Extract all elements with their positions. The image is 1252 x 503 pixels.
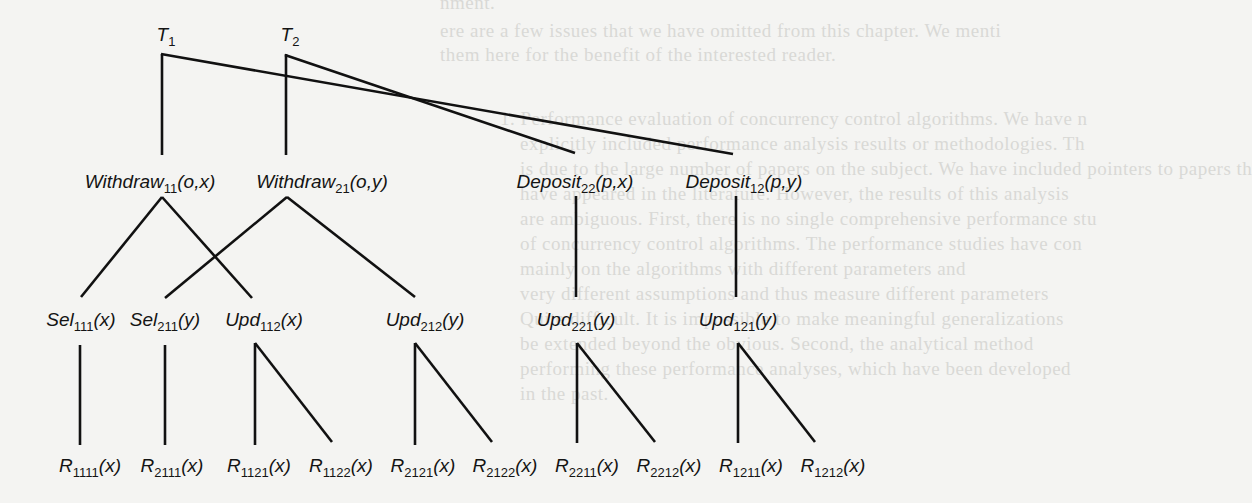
edge-withdraw11-sel111: [81, 197, 162, 297]
node-r2111: R2111(x): [141, 456, 204, 475]
node-label: Upd: [699, 309, 734, 330]
node-args: (o,x): [177, 171, 215, 192]
node-subscript: 21: [335, 181, 349, 196]
node-upd212: Upd212(y): [386, 310, 465, 329]
node-args: (x): [281, 309, 303, 330]
node-args: (x): [351, 455, 373, 476]
node-args: (y): [593, 309, 615, 330]
node-r2211: R2211(x): [555, 456, 619, 475]
node-subscript: 1111: [73, 465, 99, 480]
node-r1211: R1211(x): [719, 456, 783, 475]
edge-t1-deposit12: [161, 54, 733, 154]
node-label: Sel: [130, 309, 157, 330]
node-args: (y): [178, 309, 200, 330]
node-args: (p,x): [595, 171, 633, 192]
node-args: (x): [94, 309, 116, 330]
node-label: R: [719, 455, 733, 476]
node-label: Deposit: [686, 171, 750, 192]
node-deposit12: Deposit12(p,y): [686, 172, 803, 191]
node-t2: T2: [281, 25, 300, 44]
edge-upd221-r2212: [577, 343, 655, 442]
node-subscript: 1211: [733, 465, 761, 480]
node-args: (o,y): [350, 171, 388, 192]
edge-withdraw21-sel211: [165, 197, 287, 298]
node-subscript: 2: [292, 34, 299, 49]
node-args: (x): [679, 455, 701, 476]
node-upd121: Upd121(y): [699, 310, 778, 329]
node-r2122: R2122(x): [473, 456, 538, 475]
node-args: (x): [269, 455, 291, 476]
node-r1212: R1212(x): [801, 456, 866, 475]
node-args: (x): [597, 455, 619, 476]
node-subscript: 2211: [569, 465, 597, 480]
node-subscript: 2122: [486, 465, 515, 480]
node-r1111: R1111(x): [59, 456, 121, 475]
edge-withdraw11-upd112: [162, 197, 252, 298]
node-label: T: [281, 24, 293, 45]
node-args: (x): [761, 455, 783, 476]
edge-t2-deposit22: [285, 55, 575, 153]
node-t1: T1: [157, 25, 176, 44]
node-subscript: 1121: [241, 465, 269, 480]
node-args: (p,y): [764, 171, 802, 192]
node-subscript: 112: [260, 319, 281, 334]
node-subscript: 2212: [650, 465, 679, 480]
node-subscript: 211: [157, 319, 178, 334]
node-label: R: [637, 455, 651, 476]
node-args: (y): [442, 309, 464, 330]
node-subscript: 212: [421, 319, 443, 334]
node-label: T: [157, 24, 169, 45]
node-label: Withdraw: [85, 171, 164, 192]
edge-withdraw21-upd212: [287, 197, 415, 297]
node-subscript: 111: [74, 319, 94, 334]
node-label: R: [473, 455, 487, 476]
node-label: R: [801, 455, 815, 476]
node-sel211: Sel211(y): [130, 310, 200, 329]
node-subscript: 2121: [404, 465, 433, 480]
node-r1122: R1122(x): [309, 456, 373, 475]
edge-upd112-r1122: [255, 343, 332, 442]
node-subscript: 121: [734, 319, 756, 334]
node-subscript: 1212: [814, 465, 843, 480]
node-upd112: Upd112(x): [225, 310, 303, 329]
node-subscript: 221: [572, 319, 594, 334]
node-label: R: [555, 455, 569, 476]
node-subscript: 2111: [154, 465, 181, 480]
node-label: R: [59, 455, 73, 476]
edge-upd212-r2122: [415, 343, 492, 442]
node-args: (x): [433, 455, 455, 476]
node-sel111: Sel111(x): [46, 310, 115, 329]
node-r2121: R2121(x): [391, 456, 456, 475]
node-label: Deposit: [517, 171, 581, 192]
node-args: (x): [843, 455, 865, 476]
edge-upd121-r1212: [738, 343, 815, 442]
node-subscript: 12: [750, 181, 764, 196]
node-label: R: [227, 455, 241, 476]
node-args: (y): [755, 309, 777, 330]
node-label: R: [309, 455, 323, 476]
node-args: (x): [515, 455, 537, 476]
node-args: (x): [99, 455, 121, 476]
node-label: R: [391, 455, 405, 476]
node-subscript: 11: [164, 181, 178, 196]
node-deposit22: Deposit22(p,x): [517, 172, 634, 191]
node-subscript: 22: [581, 181, 595, 196]
node-label: Withdraw: [256, 171, 335, 192]
node-args: (x): [181, 455, 203, 476]
node-label: R: [141, 455, 155, 476]
node-subscript: 1: [168, 34, 175, 49]
node-r1121: R1121(x): [227, 456, 291, 475]
node-withdraw21: Withdraw21(o,y): [256, 172, 387, 191]
node-upd221: Upd221(y): [537, 310, 616, 329]
node-label: Sel: [46, 309, 73, 330]
node-subscript: 1122: [323, 465, 351, 480]
node-label: Upd: [537, 309, 572, 330]
node-withdraw11: Withdraw11(o,x): [85, 172, 216, 191]
node-r2212: R2212(x): [637, 456, 702, 475]
node-label: Upd: [225, 309, 260, 330]
node-label: Upd: [386, 309, 421, 330]
